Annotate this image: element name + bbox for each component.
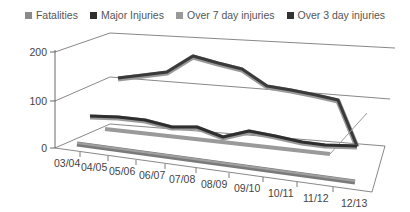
y-tick-200: 200 <box>29 46 47 58</box>
x-tick-label: 03/04 <box>54 157 80 169</box>
x-tick-label: 12/13 <box>341 197 367 209</box>
x-tick-label: 04/05 <box>81 161 107 173</box>
x-tick-label: 05/06 <box>109 165 135 177</box>
x-tick-label: 11/12 <box>303 192 329 204</box>
x-tick-label: 07/08 <box>169 173 195 185</box>
y-axis <box>50 50 55 148</box>
gridline-100-back <box>110 77 390 99</box>
gridline-200-back <box>110 33 395 48</box>
floor-right-edge <box>372 146 385 192</box>
x-tick-label: 10/11 <box>268 187 294 199</box>
y-tick-0: 0 <box>41 142 47 154</box>
x-tick-label: 06/07 <box>139 169 165 181</box>
chart-plot-area: 200 100 0 03/04 04/05 05/06 06/07 07/08 … <box>0 0 410 212</box>
y-tick-100: 100 <box>29 95 47 107</box>
gridline-100-side <box>55 77 110 101</box>
x-tick-label: 08/09 <box>201 178 227 190</box>
gridline-200-side <box>55 33 110 52</box>
x-tick-label: 09/10 <box>234 182 260 194</box>
